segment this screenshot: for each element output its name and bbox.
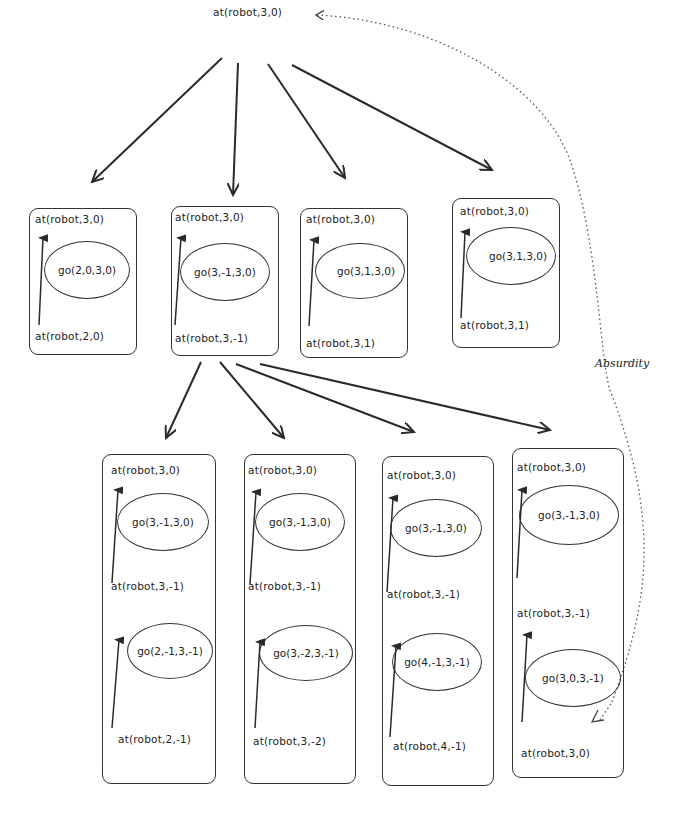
action-label: go(2,-1,3,-1) [137,645,203,657]
n2-edges [166,362,550,438]
intermediate-state: at(robot,3,-1) [111,580,184,592]
edge-n2-m4 [260,364,550,430]
level2-node-2: at(robot,3,0) go(3,-1,3,0) at(robot,3,-1… [244,454,356,784]
action-label: go(3,0,3,-1) [542,672,604,684]
action-label: go(4,-1,3,-1) [404,656,470,668]
node-start-state: at(robot,3,0) [248,464,317,476]
action-label: go(3,-2,3,-1) [273,647,339,659]
absurdity-label: Absurdity [595,357,649,370]
root-state-label: at(robot,3,0) [213,6,282,18]
edge-root-n1 [92,58,222,182]
action-label: go(3,-1,3,0) [538,509,600,521]
node-end-state: at(robot,3,0) [521,747,590,759]
level1-node-3: at(robot,3,0) go(3,1,3,0) at(robot,3,1) [300,208,408,358]
node-end-state: at(robot,3,1) [460,319,529,331]
action-ellipse: go(3,-1,3,0) [519,485,619,545]
level1-node-4: at(robot,3,0) go(3,1,3,0) at(robot,3,1) [452,198,560,348]
edge-n2-m3 [236,364,414,432]
intermediate-state: at(robot,3,-1) [387,588,460,600]
action-ellipse: go(3,-1,3,0) [180,243,270,301]
action-ellipse: go(3,-1,3,0) [255,493,345,551]
node-start-state: at(robot,3,0) [175,211,244,223]
action-label: go(2,0,3,0) [58,264,116,276]
level2-node-3: at(robot,3,0) go(3,-1,3,0) at(robot,3,-1… [382,456,494,786]
node-start-state: at(robot,3,0) [111,464,180,476]
node-end-state: at(robot,4,-1) [393,740,466,752]
edge-root-n2 [233,63,238,195]
intermediate-state: at(robot,3,-1) [248,580,321,592]
action-ellipse: go(3,1,3,0) [466,227,556,285]
action-label: go(3,1,3,0) [337,265,395,277]
intermediate-state: at(robot,3,-1) [517,607,590,619]
level1-node-1: at(robot,3,0) go(2,0,3,0) at(robot,2,0) [29,208,137,355]
action-ellipse: go(3,-2,3,-1) [259,625,353,681]
node-start-state: at(robot,3,0) [306,213,375,225]
action-label: go(3,-1,3,0) [405,522,467,534]
edge-root-n3 [268,64,345,178]
node-end-state: at(robot,2,0) [35,330,104,342]
action-ellipse: go(3,-1,3,0) [117,493,209,551]
action-label: go(3,-1,3,0) [132,516,194,528]
node-end-state: at(robot,3,1) [306,337,375,349]
level1-node-2: at(robot,3,0) go(3,-1,3,0) at(robot,3,-1… [171,206,279,356]
node-end-state: at(robot,2,-1) [118,733,191,745]
action-ellipse: go(3,-1,3,0) [390,499,482,557]
node-end-state: at(robot,3,-2) [253,735,326,747]
action-ellipse: go(3,0,3,-1) [525,649,621,707]
action-label: go(3,1,3,0) [489,250,547,262]
root-edges [92,58,492,195]
node-start-state: at(robot,3,0) [460,205,529,217]
action-ellipse: go(3,1,3,0) [315,243,405,299]
edge-root-n4 [292,65,492,170]
edge-n2-m2 [220,362,284,438]
search-tree-diagram: at(robot,3,0) Absurdity at(robot,3,0) go… [0,0,683,820]
action-ellipse: go(2,0,3,0) [44,241,130,299]
edge-n2-m1 [166,362,201,438]
level2-node-4: at(robot,3,0) go(3,-1,3,0) at(robot,3,-1… [512,448,624,778]
level2-node-1: at(robot,3,0) go(3,-1,3,0) at(robot,3,-1… [102,454,216,784]
node-start-state: at(robot,3,0) [387,469,456,481]
action-label: go(3,-1,3,0) [269,516,331,528]
node-start-state: at(robot,3,0) [517,461,586,473]
node-end-state: at(robot,3,-1) [175,332,248,344]
action-ellipse: go(2,-1,3,-1) [127,623,213,679]
node-start-state: at(robot,3,0) [35,213,104,225]
action-label: go(3,-1,3,0) [194,266,256,278]
action-ellipse: go(4,-1,3,-1) [392,633,482,691]
